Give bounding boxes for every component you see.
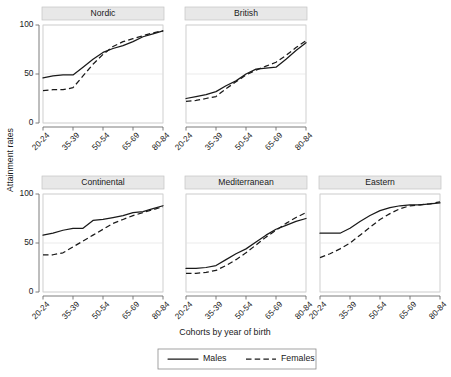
- panel-title-eastern: Eastern: [365, 177, 395, 187]
- x-tick-label-50-54: 50-54: [233, 131, 254, 152]
- panel-title-nordic: Nordic: [91, 8, 117, 18]
- x-tick-label-65-69: 65-69: [120, 131, 141, 152]
- panel-nordic: Nordic05010020-2435-3950-5465-6980-84: [20, 7, 172, 152]
- x-tick-label-50-54: 50-54: [90, 300, 111, 321]
- x-tick-label-20-24: 20-24: [30, 131, 51, 152]
- y-tick-label-100: 100: [20, 19, 34, 29]
- x-axis-title: Cohorts by year of birth: [179, 327, 271, 337]
- y-tick-label-100: 100: [20, 188, 34, 198]
- panel-title-continental: Continental: [81, 177, 125, 187]
- y-axis-title: Attainment rates: [5, 127, 15, 192]
- x-tick-label-35-39: 35-39: [203, 131, 224, 152]
- x-tick-label-20-24: 20-24: [173, 300, 194, 321]
- y-tick-label-50: 50: [24, 237, 34, 247]
- panel-british: British20-2435-3950-5465-6980-84: [173, 7, 314, 152]
- x-tick-label-20-24: 20-24: [173, 131, 194, 152]
- x-tick-label-35-39: 35-39: [337, 300, 358, 321]
- y-tick-label-0: 0: [29, 117, 34, 127]
- x-tick-label-65-69: 65-69: [120, 300, 141, 321]
- panel-eastern: Eastern20-2435-3950-5465-6980-84: [307, 176, 448, 321]
- x-tick-label-80-84: 80-84: [150, 300, 171, 321]
- y-tick-label-0: 0: [29, 286, 34, 296]
- x-tick-label-50-54: 50-54: [233, 300, 254, 321]
- legend-label-females: Females: [281, 353, 315, 363]
- chart-figure: Nordic05010020-2435-3950-5465-6980-84Bri…: [0, 0, 451, 377]
- x-tick-label-35-39: 35-39: [60, 300, 81, 321]
- x-tick-label-65-69: 65-69: [263, 300, 284, 321]
- legend: MalesFemales: [158, 349, 316, 369]
- y-tick-label-50: 50: [24, 68, 34, 78]
- x-tick-label-80-84: 80-84: [293, 131, 314, 152]
- x-tick-label-65-69: 65-69: [397, 300, 418, 321]
- panel-continental: Continental05010020-2435-3950-5465-6980-…: [20, 176, 172, 321]
- x-tick-label-50-54: 50-54: [367, 300, 388, 321]
- x-tick-label-35-39: 35-39: [203, 300, 224, 321]
- panel-mediterranean: Mediterranean20-2435-3950-5465-6980-84: [173, 176, 314, 321]
- x-tick-label-80-84: 80-84: [150, 131, 171, 152]
- x-tick-label-20-24: 20-24: [30, 300, 51, 321]
- panel-title-mediterranean: Mediterranean: [218, 177, 274, 187]
- x-tick-label-65-69: 65-69: [263, 131, 284, 152]
- attainment-rates-panel-chart: Nordic05010020-2435-3950-5465-6980-84Bri…: [0, 0, 451, 377]
- x-tick-label-80-84: 80-84: [427, 300, 448, 321]
- legend-label-males: Males: [203, 353, 227, 363]
- x-tick-label-35-39: 35-39: [60, 131, 81, 152]
- panel-title-british: British: [234, 8, 258, 18]
- x-tick-label-50-54: 50-54: [90, 131, 111, 152]
